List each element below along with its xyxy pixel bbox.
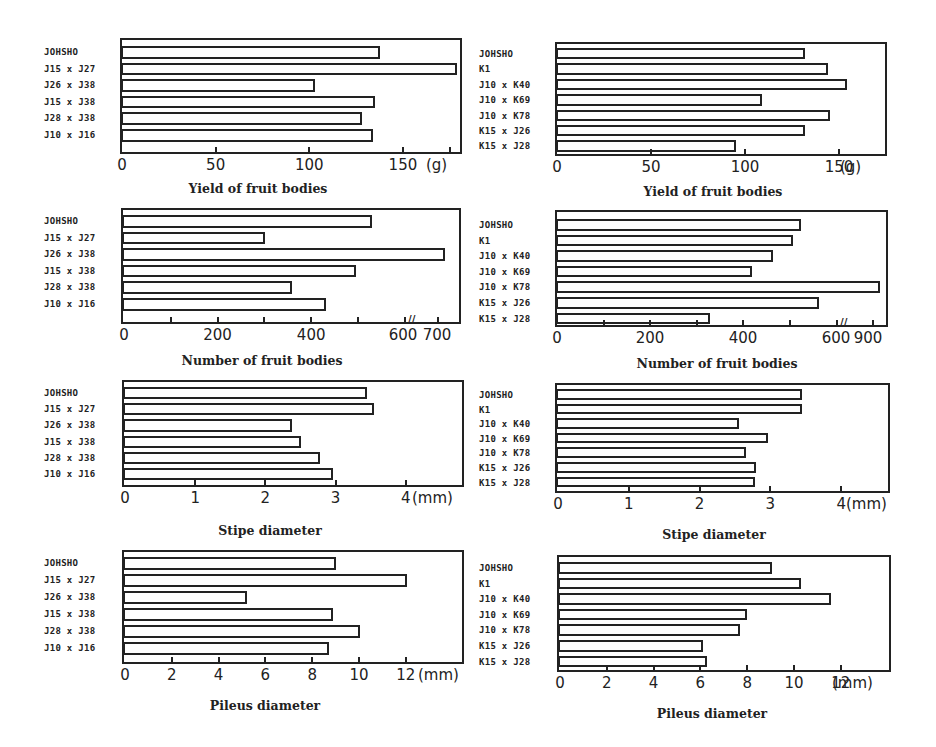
x-tick [746, 665, 748, 671]
bar [122, 298, 326, 311]
bar [123, 468, 333, 480]
category-label: J26 x J38 [44, 249, 95, 259]
category-label: J15 x J38 [44, 97, 95, 107]
bar [122, 281, 292, 294]
x-tick-label: 700 [423, 327, 452, 343]
category-label: J26 x J38 [44, 80, 95, 90]
x-tick-label: 2 [167, 667, 177, 683]
category-label: JOHSHO [479, 563, 513, 573]
bar [123, 436, 301, 448]
x-tick-label: 0 [117, 157, 127, 173]
x-tick [215, 147, 217, 153]
x-tick-label: 10 [784, 675, 803, 691]
category-label: JOHSHO [44, 388, 78, 398]
category-label: J10 x K78 [479, 448, 530, 458]
bar [123, 591, 247, 604]
x-tick-label: 150 [389, 157, 418, 173]
x-axis-title: Stipe diameter [662, 527, 766, 542]
x-tick [194, 480, 196, 486]
category-label: K15 x J28 [479, 314, 530, 324]
bar [122, 248, 445, 261]
x-tick-label: 0 [552, 159, 562, 175]
category-label: K1 [479, 405, 490, 415]
x-tick [358, 657, 360, 663]
x-tick [263, 317, 265, 323]
x-tick [699, 486, 701, 492]
x-tick [793, 665, 795, 671]
category-label: J15 x J27 [44, 64, 95, 74]
bar [121, 79, 315, 92]
bar [556, 125, 805, 136]
x-tick [836, 320, 838, 326]
bar [556, 447, 746, 458]
x-tick [699, 665, 701, 671]
x-tick [769, 486, 771, 492]
bar [556, 235, 793, 247]
x-tick-label: 100 [731, 159, 760, 175]
bar [123, 642, 329, 655]
x-tick-label: 600 [822, 330, 851, 346]
bar [121, 112, 362, 125]
x-tick-label: 6 [696, 675, 706, 691]
category-label: J10 x K40 [479, 251, 530, 261]
x-tick-label: 600 [389, 327, 418, 343]
x-tick-label: 8 [307, 667, 317, 683]
bar [123, 608, 333, 621]
x-tick-label: 0 [119, 327, 129, 343]
x-tick [405, 480, 407, 486]
x-tick-label: 8 [742, 675, 752, 691]
axis-break-mark: // [840, 318, 847, 328]
x-axis-unit: (mm) [846, 496, 887, 512]
bar [556, 404, 802, 415]
category-label: J15 x J27 [44, 233, 95, 243]
category-label: JOHSHO [479, 49, 513, 59]
x-tick [603, 320, 605, 326]
x-tick [628, 486, 630, 492]
bar [556, 297, 819, 309]
x-tick-label: 1 [190, 490, 200, 506]
x-tick-label: 50 [206, 157, 225, 173]
bar [556, 281, 880, 293]
category-label: J10 x K40 [479, 594, 530, 604]
x-tick-label: 0 [555, 675, 565, 691]
category-label: J10 x K78 [479, 282, 530, 292]
bar [556, 462, 756, 473]
category-label: J10 x K69 [479, 434, 530, 444]
category-label: J26 x J38 [44, 420, 95, 430]
category-label: J15 x J27 [44, 404, 95, 414]
x-axis-unit: (g) [840, 159, 861, 175]
x-tick-label: 2 [261, 490, 271, 506]
x-tick-label: 1 [624, 496, 634, 512]
x-tick-label: 0 [120, 667, 130, 683]
x-tick-label: 400 [729, 330, 758, 346]
category-label: K1 [479, 64, 490, 74]
bar [123, 403, 374, 415]
category-label: J10 x K40 [479, 80, 530, 90]
bar [558, 624, 740, 636]
x-tick [264, 657, 266, 663]
x-tick [218, 657, 220, 663]
x-tick-label: 200 [636, 330, 665, 346]
x-axis-unit: (mm) [418, 667, 459, 683]
category-label: K15 x J26 [479, 298, 530, 308]
bar [121, 129, 373, 142]
category-label: J26 x J38 [44, 592, 95, 602]
bar [558, 578, 801, 590]
x-axis-unit: (g) [426, 157, 447, 173]
bar [122, 265, 356, 278]
bar [556, 63, 828, 74]
x-tick-label: 2 [695, 496, 705, 512]
x-tick [264, 480, 266, 486]
x-tick-label: 3 [331, 490, 341, 506]
x-tick-label: 50 [641, 159, 660, 175]
bar [121, 96, 375, 109]
category-label: K15 x J28 [479, 478, 530, 488]
category-label: J10 x K40 [479, 419, 530, 429]
bar [558, 656, 707, 668]
category-label: K1 [479, 579, 490, 589]
category-label: J10 x J16 [44, 130, 95, 140]
x-tick-label: 0 [553, 496, 563, 512]
x-tick-label: 900 [854, 330, 883, 346]
category-label: JOHSHO [479, 390, 513, 400]
x-tick-label: 10 [349, 667, 368, 683]
